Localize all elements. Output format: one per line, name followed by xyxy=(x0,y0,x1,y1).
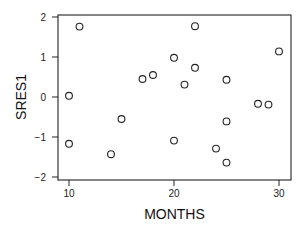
y-axis-label: SRES1 xyxy=(13,74,29,120)
data-point xyxy=(171,137,178,144)
data-point xyxy=(255,100,262,107)
plot-frame xyxy=(58,15,291,180)
data-points xyxy=(66,23,283,166)
y-tick-label: 1 xyxy=(40,52,46,63)
data-point xyxy=(118,116,125,123)
data-point xyxy=(213,145,220,152)
data-point xyxy=(181,81,188,88)
data-point xyxy=(192,23,199,30)
data-point xyxy=(66,92,73,99)
y-axis: −2−1012 xyxy=(35,12,58,183)
x-axis-label: MONTHS xyxy=(144,206,205,222)
data-point xyxy=(139,76,146,83)
data-point xyxy=(223,159,230,166)
data-point xyxy=(108,151,115,158)
x-tick-label: 20 xyxy=(168,188,180,199)
x-tick-label: 10 xyxy=(63,188,75,199)
scatter-chart: −2−1012 102030 MONTHS SRES1 xyxy=(0,0,306,230)
y-tick-label: −2 xyxy=(35,172,47,183)
x-tick-label: 30 xyxy=(273,188,285,199)
data-point xyxy=(223,76,230,83)
y-tick-label: 0 xyxy=(40,92,46,103)
data-point xyxy=(265,101,272,108)
data-point xyxy=(76,23,83,30)
y-tick-label: −1 xyxy=(35,132,47,143)
x-axis: 102030 xyxy=(63,180,285,199)
data-point xyxy=(192,64,199,71)
data-point xyxy=(276,48,283,55)
data-point xyxy=(66,140,73,147)
data-point xyxy=(150,72,157,79)
y-tick-label: 2 xyxy=(40,12,46,23)
data-point xyxy=(171,54,178,61)
data-point xyxy=(223,118,230,125)
